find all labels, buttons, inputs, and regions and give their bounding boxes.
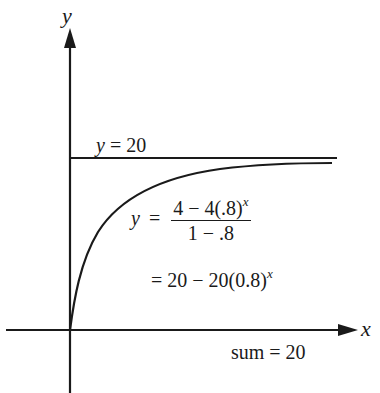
equation-simplified: = 20 − 20(0.8)x <box>151 270 273 290</box>
equation-denominator: 1 − .8 <box>188 221 234 243</box>
equation-lhs: y <box>131 207 140 229</box>
x-axis-label: x <box>361 318 371 340</box>
asymptote-label-eq: = 20 <box>110 134 146 156</box>
y-axis-arrow-icon <box>64 28 76 48</box>
curve-equation: y = 4 − 4(.8)x 1 − .8 <box>131 198 251 243</box>
asymptote-label-var: y <box>96 134 105 156</box>
growth-curve <box>70 163 332 330</box>
y-axis-label: y <box>62 5 72 27</box>
x-axis-arrow-icon <box>338 324 358 336</box>
equation-fraction: 4 − 4(.8)x 1 − .8 <box>171 198 250 243</box>
equation-equals: = <box>149 207 160 229</box>
asymptote-label: y = 20 <box>96 135 146 155</box>
sum-label: sum = 20 <box>231 342 306 362</box>
equation-numerator: 4 − 4(.8)x <box>171 198 250 221</box>
